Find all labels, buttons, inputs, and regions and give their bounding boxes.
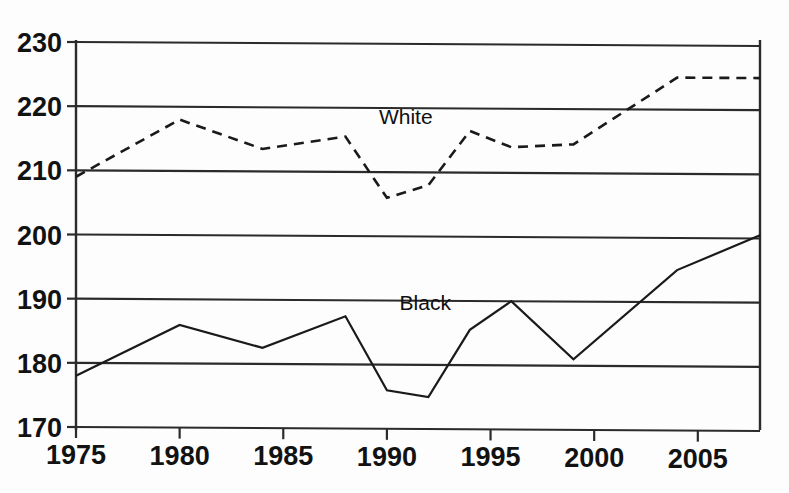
x-tick-label-1995: 1995 <box>461 442 521 472</box>
line-chart-figure: 170180190200210220230 197519801985199019… <box>0 0 789 493</box>
x-tick-label-2000: 2000 <box>564 443 624 473</box>
x-tick-label-1990: 1990 <box>357 442 417 472</box>
y-tick-label-180: 180 <box>17 349 62 379</box>
chart-canvas: 170180190200210220230 197519801985199019… <box>0 0 789 493</box>
x-tick-label-2005: 2005 <box>668 444 728 474</box>
y-tick-label-230: 230 <box>17 28 62 58</box>
y-tick-label-210: 210 <box>17 156 62 186</box>
x-tick-label-1985: 1985 <box>253 441 313 471</box>
chart-background <box>0 0 789 493</box>
y-tick-label-200: 200 <box>17 221 62 251</box>
series-label-black: Black <box>400 291 452 314</box>
series-label-white: White <box>379 105 433 128</box>
y-tick-label-170: 170 <box>17 413 62 443</box>
x-tick-label-1980: 1980 <box>150 441 210 471</box>
x-tick-label-1975: 1975 <box>46 440 106 470</box>
y-tick-label-220: 220 <box>17 92 62 122</box>
y-tick-label-190: 190 <box>17 285 62 315</box>
